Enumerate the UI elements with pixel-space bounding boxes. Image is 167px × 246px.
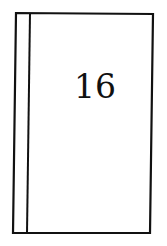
book-number-label: 16: [58, 64, 132, 108]
book-cover-outline: [13, 13, 153, 233]
book-spine-line: [27, 13, 30, 233]
book-outline-icon: [0, 0, 167, 246]
book-drawing: 16: [0, 0, 167, 246]
